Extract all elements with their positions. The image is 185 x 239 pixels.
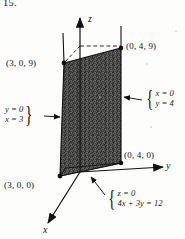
arrow-base-plane	[91, 177, 105, 195]
label-point-0-4-0: (0, 4, 0)	[124, 150, 154, 160]
annotation-right-face: { x = 0 y = 4	[144, 88, 174, 109]
annotation-left-face: y = 0 x = 3 }	[5, 104, 35, 125]
dot-0-4-0	[119, 161, 124, 166]
equation-x-equals-0: x = 0	[156, 88, 174, 98]
annotation-base-plane: { z = 0 4x + 3y = 12	[106, 188, 163, 209]
base-plane-equation-stack: z = 0 4x + 3y = 12	[118, 188, 163, 209]
equation-y-equals-0: y = 0	[5, 104, 23, 114]
x-axis-label: x	[43, 224, 47, 235]
equation-4x-3y-12: 4x + 3y = 12	[118, 198, 163, 208]
label-point-3-0-0: (3, 0, 0)	[4, 180, 34, 190]
scan-speck	[175, 30, 177, 32]
dot-0-4-9	[119, 46, 124, 51]
brace-left-glyph: {	[146, 89, 153, 108]
equation-y-equals-4: y = 4	[156, 98, 174, 108]
scan-speck	[146, 63, 148, 65]
scan-speck	[99, 96, 101, 98]
brace-right-glyph: }	[25, 105, 32, 124]
vertical-line-left-corner	[63, 33, 64, 63]
z-axis-label: z	[88, 13, 92, 24]
left-face-equation-stack: y = 0 x = 3	[5, 104, 23, 125]
equation-z-equals-0: z = 0	[118, 188, 163, 198]
arrow-left-face	[44, 116, 60, 117]
dot-3-0-9	[62, 61, 67, 66]
right-face-equation-stack: x = 0 y = 4	[156, 88, 174, 109]
arrow-right-face	[124, 97, 142, 100]
y-axis-label: y	[166, 160, 170, 171]
brace-left-glyph-base: {	[108, 189, 115, 208]
scan-speck	[150, 126, 152, 128]
x-axis-line	[48, 172, 80, 223]
label-point-3-0-9: (3, 0, 9)	[6, 58, 36, 68]
shaded-plane-region	[60, 48, 121, 176]
figure-page: 15.	[0, 0, 185, 239]
dot-3-0-0	[58, 174, 63, 179]
label-point-0-4-9: (0, 4, 9)	[126, 41, 156, 51]
equation-x-equals-3: x = 3	[5, 114, 23, 124]
